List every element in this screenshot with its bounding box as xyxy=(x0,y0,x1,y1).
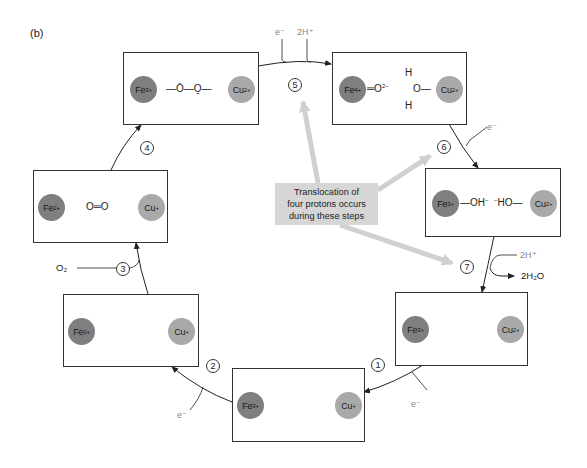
step-1-marker: 1 xyxy=(371,358,385,372)
cu-ion: Cu2+ xyxy=(436,76,463,103)
cu-ion: Cu+ xyxy=(138,194,165,221)
step-5-electron: e⁻ xyxy=(275,27,285,37)
step-3-oxygen: O₂ xyxy=(56,262,67,273)
cu-ion: Cu+ xyxy=(335,392,362,419)
step-6-electron: e⁻ xyxy=(487,122,497,132)
step-5-marker: 5 xyxy=(288,78,302,92)
fe-ion: Fe2+ xyxy=(68,318,95,345)
fe-ion: Fe2+ xyxy=(38,194,65,221)
step-1-electron: e⁻ xyxy=(411,399,421,409)
fe-ion: Fe3+ xyxy=(432,190,459,217)
state-box-7: Fe3+ Cu2+ xyxy=(395,292,528,366)
cu-ion: Cu2+ xyxy=(497,316,524,343)
step-6-marker: 6 xyxy=(437,140,451,154)
step-7-protons: 2H⁺ xyxy=(520,250,537,260)
proton-translocation-callout: Translocation of four protons occurs dur… xyxy=(275,183,378,225)
step-2-marker: 2 xyxy=(206,359,220,373)
step-7-marker: 7 xyxy=(460,260,474,274)
state-box-2: Fe2+ Cu+ xyxy=(63,294,199,367)
step-7-water: 2H₂O xyxy=(521,270,544,281)
water-h-top: H xyxy=(405,67,412,78)
panel-label: (b) xyxy=(30,27,43,39)
callout-line: during these steps xyxy=(275,210,378,222)
fe-ion: Fe3+ xyxy=(402,316,429,343)
step-5-protons: 2H⁺ xyxy=(297,27,314,37)
peroxide-ligand: —Ō—O̱— xyxy=(166,83,212,94)
cu-ion: Cu2+ xyxy=(530,190,557,217)
water-o: O— xyxy=(413,83,431,94)
dioxygen-ligand: O═O xyxy=(86,201,109,212)
hydroxide-cu: −HO— xyxy=(494,197,523,208)
fe-ion: Fe4+ xyxy=(339,76,366,103)
state-box-4: Fe3+ —Ō—O̱— Cu2+ xyxy=(123,52,259,125)
callout-line: Translocation of xyxy=(275,186,378,198)
step-3-marker: 3 xyxy=(116,262,130,276)
state-box-3: Fe2+ O═O Cu+ xyxy=(33,170,168,243)
oxo-ligand: ═O2− xyxy=(367,83,389,94)
fe-ion: Fe3+ xyxy=(130,76,157,103)
fe-ion: Fe3+ xyxy=(237,392,264,419)
state-box-1: Fe3+ Cu+ xyxy=(232,368,365,442)
cu-ion: Cu2+ xyxy=(228,76,255,103)
hydroxide-fe: —OH− xyxy=(460,197,489,208)
state-box-5: Fe4+ ═O2− H O— H Cu2+ xyxy=(332,52,467,125)
callout-line: four protons occurs xyxy=(275,198,378,210)
water-h-bottom: H xyxy=(405,100,412,111)
step-2-electron: e⁻ xyxy=(177,410,187,420)
step-4-marker: 4 xyxy=(140,141,154,155)
cu-ion: Cu+ xyxy=(168,318,195,345)
state-box-6: Fe3+ —OH− −HO— Cu2+ xyxy=(425,168,561,237)
